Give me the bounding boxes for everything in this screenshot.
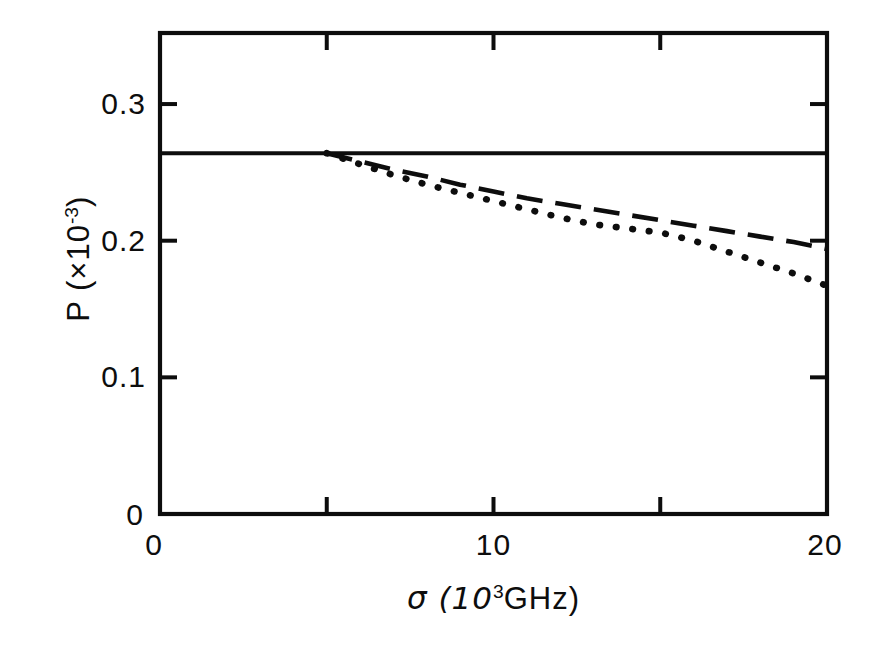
figure-container: 0 0.1 0.2 0.3 0 10 20 P (×10-3) σ (103GH… — [0, 0, 888, 648]
y-tick-label-0.3: 0.3 — [101, 89, 146, 119]
axes-frame — [160, 33, 827, 514]
y-tick-label-0.2: 0.2 — [101, 226, 146, 256]
tick-marks — [160, 33, 827, 514]
x-tick-label-20: 20 — [807, 530, 842, 560]
x-axis-title: σ (103GHz) — [407, 582, 580, 614]
x-axis-title-lead: σ (10 — [407, 580, 493, 616]
x-axis-title-tail: GHz) — [504, 581, 580, 616]
x-tick-label-10: 10 — [476, 530, 511, 560]
x-axis-title-exponent: 3 — [493, 581, 504, 602]
data-series-layer — [160, 153, 827, 286]
y-tick-label-0: 0 — [126, 500, 144, 530]
x-tick-label-0: 0 — [145, 530, 163, 560]
y-tick-label-0.1: 0.1 — [101, 362, 146, 392]
